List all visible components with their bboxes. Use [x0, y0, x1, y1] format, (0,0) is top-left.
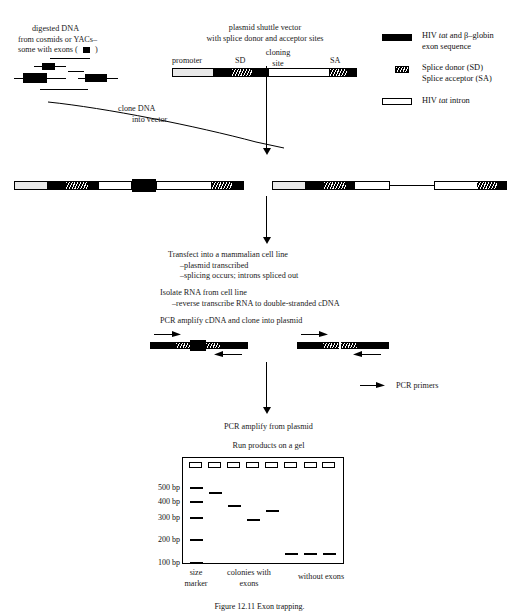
- segment-exon: [220, 342, 248, 349]
- segment-trapped-exon: [190, 340, 206, 351]
- gel-lane-label-with-exons: colonies with exons: [214, 568, 284, 589]
- gel-band: [190, 501, 203, 503]
- gel-band: [304, 553, 317, 555]
- exon-square-icon: [83, 47, 90, 53]
- splice-key-icon: [395, 66, 409, 73]
- gel-lane-label-without-exons: without exons: [286, 572, 356, 583]
- gel-band: [190, 539, 203, 541]
- gel-band: [285, 553, 298, 555]
- legend-splice-text: Splice donor (SD) Splice acceptor (SA): [422, 62, 492, 84]
- segment-exon: [346, 181, 354, 190]
- gel-well: [304, 462, 317, 468]
- figure-canvas: digested DNA from cosmids or YACs– some …: [0, 0, 519, 613]
- segment-exon: [497, 181, 507, 190]
- segment-exon: [150, 342, 176, 349]
- label-cloning-site: cloning site: [258, 48, 298, 69]
- label-sd: SD: [235, 56, 245, 67]
- construct-without-exon: [272, 181, 507, 190]
- legend-intron-text: HIV tat intron: [422, 95, 470, 106]
- clone-dna-line1: clone DNA: [118, 104, 167, 115]
- segment-splice-acceptor: [330, 68, 347, 77]
- gel-well: [284, 462, 297, 468]
- gel-well: [208, 462, 221, 468]
- segment-exon: [48, 181, 66, 190]
- segment-exon: [214, 68, 232, 77]
- clone-dna-line2: into vector: [118, 115, 167, 126]
- gel-well: [322, 462, 335, 468]
- gel-well: [265, 462, 278, 468]
- cdna-with-exon-group: [150, 332, 260, 358]
- segment-splice-acceptor: [477, 181, 497, 190]
- segment-intron: [268, 68, 330, 77]
- gel-band: [190, 517, 203, 519]
- segment-promoter: [14, 181, 48, 190]
- label-sa: SA: [330, 56, 340, 67]
- gel-band: [247, 519, 260, 521]
- gel-band: [190, 487, 203, 489]
- gel-marker-label: 100 bp: [140, 558, 180, 567]
- segment-splice-donor: [176, 342, 190, 349]
- segment-exon: [306, 181, 324, 190]
- digested-dna-title: digested DNA from cosmids or YACs– some …: [18, 24, 98, 56]
- step-isolate-rna: Isolate RNA from cell line –reverse tran…: [160, 288, 340, 309]
- segment-splice-acceptor: [341, 342, 357, 349]
- gel-lane-label-size-marker: size marker: [178, 568, 214, 589]
- vector-title: plasmid shuttle vector with splice donor…: [170, 23, 360, 44]
- dna-fragment-line: [50, 58, 90, 59]
- step-transfect: Transfect into a mammalian cell line –pl…: [168, 250, 298, 282]
- exon-key-icon: [382, 34, 412, 41]
- digested-dna-line1: digested DNA: [18, 24, 98, 35]
- segment-splice-acceptor: [212, 181, 232, 190]
- clone-dna-label: clone DNA into vector: [118, 104, 167, 125]
- segment-splice-acceptor: [206, 342, 220, 349]
- segment-promoter: [172, 68, 214, 77]
- cdna-without-exon-group: [297, 332, 402, 358]
- segment-intron: [354, 181, 390, 190]
- plasmid-vector-bar: [172, 68, 357, 77]
- step-pcr-clone: PCR amplify cDNA and clone into plasmid: [160, 316, 302, 327]
- digested-dna-line2: from cosmids or YACs–: [18, 35, 98, 46]
- pcr-primers-label: PCR primers: [396, 381, 439, 392]
- figure-caption: Figure 12.11 Exon trapping.: [0, 602, 519, 611]
- gel-band: [228, 505, 241, 507]
- gel-well: [189, 462, 202, 468]
- gel-marker-label: 500 bp: [140, 483, 180, 492]
- segment-connector-line: [390, 185, 434, 186]
- cdna-without-exon-bar: [297, 342, 389, 349]
- gel-band: [209, 492, 222, 494]
- gel-marker-label: 400 bp: [140, 497, 180, 506]
- gel-marker-label: 300 bp: [140, 513, 180, 522]
- gel-well: [227, 462, 240, 468]
- step-run-gel: Run products on a gel: [196, 441, 341, 452]
- cdna-with-exon-bar: [150, 342, 248, 349]
- gel-band: [190, 562, 203, 564]
- segment-exon: [232, 181, 244, 190]
- segment-promoter: [272, 181, 306, 190]
- gel-well: [246, 462, 259, 468]
- segment-exon: [357, 342, 389, 349]
- legend: HIV tat and β–globin exon sequence Splic…: [382, 32, 519, 122]
- pcr-primers-legend: PCR primers: [360, 383, 460, 395]
- gel-band: [323, 553, 336, 555]
- cloning-site-tick: [266, 66, 267, 79]
- segment-splice-donor: [324, 181, 346, 190]
- intron-key-icon: [382, 98, 412, 105]
- segment-splice-donor: [232, 68, 252, 77]
- segment-intron: [156, 181, 212, 190]
- vector-title-line2: with splice donor and acceptor sites: [170, 34, 360, 45]
- gel-band: [266, 510, 279, 512]
- digested-dna-line3: some with exons ( ): [18, 45, 98, 56]
- vector-title-line1: plasmid shuttle vector: [170, 23, 360, 34]
- construct-with-exon: [14, 181, 244, 190]
- step-pcr-from-plasmid: PCR amplify from plasmid: [196, 422, 341, 433]
- legend-exon-text: HIV tat and β–globin exon sequence: [422, 30, 494, 52]
- gel-marker-label: 200 bp: [140, 535, 180, 544]
- segment-exon: [347, 68, 357, 77]
- clone-dna-curve: [46, 72, 291, 152]
- segment-intron: [98, 181, 132, 190]
- segment-exon: [297, 342, 323, 349]
- segment-exon: [88, 181, 98, 190]
- segment-splice-donor: [323, 342, 339, 349]
- gel-box: [182, 457, 344, 564]
- segment-splice-donor: [66, 181, 88, 190]
